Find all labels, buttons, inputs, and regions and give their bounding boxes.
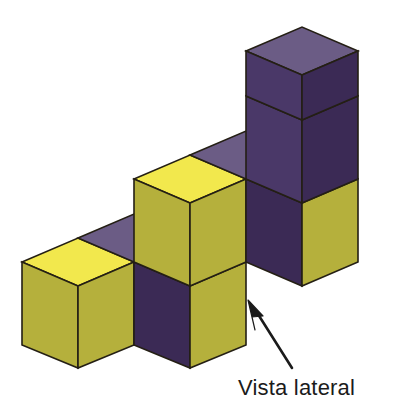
isometric-figure: Vista lateral [0, 0, 401, 420]
view-label-vista-lateral: Vista lateral [238, 377, 355, 399]
view-direction-arrow [248, 300, 292, 368]
isometric-cube-stack-drawing [0, 0, 401, 420]
